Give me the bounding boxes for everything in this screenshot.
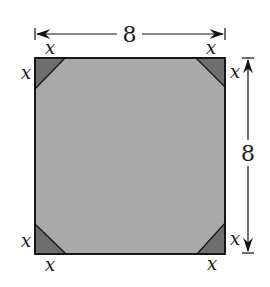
label-top-right-top: x — [206, 37, 216, 58]
label-top-right-side: x — [230, 61, 240, 82]
diagram-canvas: 8 8 x x x x x x x x — [0, 0, 270, 287]
label-top-left-side: x — [21, 62, 31, 83]
label-bottom-right-bottom: x — [207, 253, 217, 274]
right-side-label: 8 — [241, 141, 255, 166]
label-bottom-left-side: x — [21, 230, 31, 251]
top-dimension: 8 — [35, 22, 225, 47]
right-dimension: 8 — [241, 58, 255, 253]
label-bottom-left-bottom: x — [45, 254, 55, 275]
square-body — [35, 58, 225, 254]
top-side-label: 8 — [123, 22, 137, 47]
label-top-left-top: x — [45, 37, 55, 58]
label-bottom-right-side: x — [230, 228, 240, 249]
square — [35, 58, 225, 254]
